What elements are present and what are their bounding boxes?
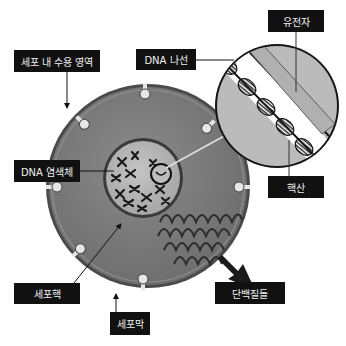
label-nucleic-acid: 핵산: [268, 176, 324, 198]
cell-diagram: 세포 내 수용 영역 DNA 나선 유전자 DNA 염색체 핵산 세포핵 세포막…: [0, 0, 346, 346]
label-gene: 유전자: [268, 10, 324, 32]
label-dna-helix: DNA 나선: [136, 49, 196, 70]
label-chromosome: DNA 염색체: [14, 160, 80, 182]
nucleus: [103, 138, 183, 218]
label-receptor: 세포 내 수용 영역: [14, 50, 100, 72]
label-proteins: 단백질들: [215, 282, 285, 304]
label-nucleus: 세포핵: [14, 283, 80, 304]
label-membrane: 세포막: [110, 312, 150, 335]
